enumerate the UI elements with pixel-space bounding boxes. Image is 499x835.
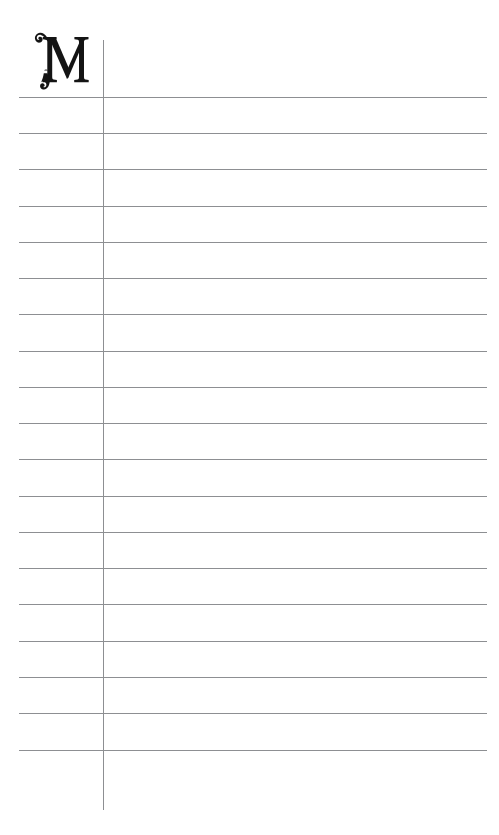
ruled-line (19, 169, 487, 170)
ruled-line (19, 278, 487, 279)
ruled-line (19, 568, 487, 569)
ruled-line (19, 314, 487, 315)
ruled-line (19, 713, 487, 714)
ruled-line (19, 351, 487, 352)
ruled-line (19, 496, 487, 497)
ruled-line (19, 641, 487, 642)
ruled-line (19, 677, 487, 678)
ruled-line (19, 604, 487, 605)
ruled-line (19, 423, 487, 424)
ruled-page: M (0, 0, 499, 835)
ruled-line (19, 387, 487, 388)
ruled-line (19, 459, 487, 460)
ruled-line (19, 206, 487, 207)
ruled-line (19, 532, 487, 533)
ruled-line (19, 97, 487, 98)
ruled-line (19, 750, 487, 751)
ornamental-letter-m-icon: M (30, 24, 92, 94)
ruled-line (19, 242, 487, 243)
margin-rule-line (103, 40, 104, 810)
ruled-line (19, 133, 487, 134)
